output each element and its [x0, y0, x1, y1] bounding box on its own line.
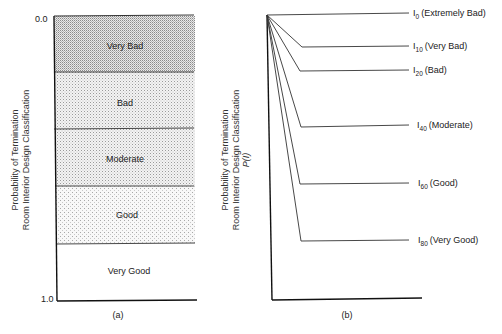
curve-i80: [267, 15, 409, 241]
figure-canvas: Very Bad Bad Moderate Good Very Good 0.0…: [0, 0, 502, 334]
y-axis-title-line2: Room Interior Design Classification: [21, 90, 31, 231]
band-top-line: [54, 15, 194, 16]
y-axis-title-line2: Room Interior Design Classification: [231, 90, 241, 231]
y-tick-top: 0.0: [35, 14, 48, 24]
panel-a: Very Bad Bad Moderate Good Very Good 0.0…: [10, 14, 197, 320]
curve-i0: [267, 13, 409, 15]
curve-i20: [267, 15, 409, 71]
curve-i10: [267, 15, 409, 47]
band-label-very-bad: Very Bad: [107, 41, 144, 51]
y-axis-title-line3: P(I): [241, 153, 251, 168]
panel-b: I0(Extremely Bad) I10(Very Bad) I20(Bad)…: [220, 8, 486, 320]
y-axis: [267, 15, 272, 300]
curve-label-i10: I10(Very Bad): [413, 41, 467, 53]
curve-label-i60: I60(Good): [418, 178, 458, 190]
band-label-good: Good: [116, 210, 138, 220]
y-tick-bottom: 1.0: [41, 294, 54, 304]
band-label-moderate: Moderate: [106, 154, 144, 164]
x-axis: [272, 298, 422, 300]
panel-b-caption: (b): [342, 310, 353, 320]
curve-label-i80: I80(Very Good): [418, 235, 478, 247]
curve-label-i20: I20(Bad): [413, 65, 447, 77]
x-axis: [57, 300, 197, 301]
y-axis-title-line1: Probability of Termination: [220, 110, 230, 211]
curve-label-i40: I40(Moderate): [417, 120, 473, 132]
panel-a-caption: (a): [113, 310, 124, 320]
curve-label-i0: I0(Extremely Bad): [413, 8, 486, 20]
band-label-very-good: Very Good: [108, 266, 151, 276]
band-label-bad: Bad: [117, 98, 133, 108]
y-axis-title-line1: Probability of Termination: [10, 110, 20, 211]
